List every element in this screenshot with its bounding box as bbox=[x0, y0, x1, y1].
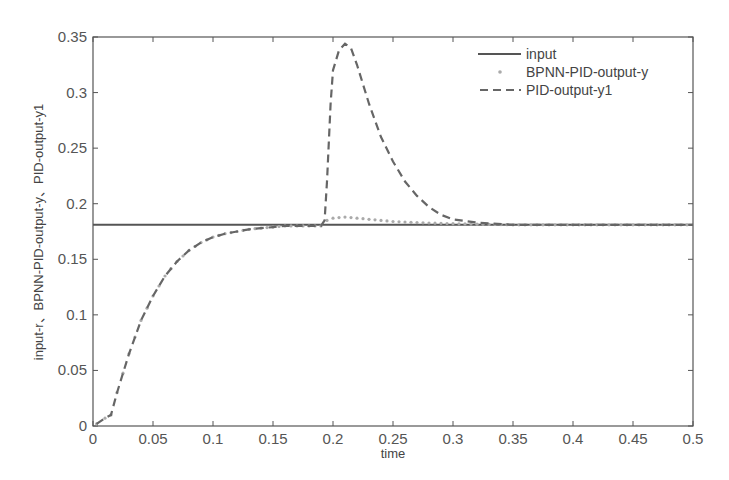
y-tick-label: 0.35 bbox=[58, 28, 87, 45]
x-tick-label: 0.5 bbox=[683, 430, 704, 447]
legend-swatch-bpnn-pid bbox=[498, 70, 502, 74]
legend-label-input: input bbox=[526, 46, 556, 62]
x-tick-label: 0.4 bbox=[563, 430, 584, 447]
x-tick-label: 0.15 bbox=[258, 430, 287, 447]
x-tick-label: 0.05 bbox=[138, 430, 167, 447]
x-tick-label: 0.45 bbox=[618, 430, 647, 447]
x-tick-label: 0.1 bbox=[203, 430, 224, 447]
y-tick-label: 0.05 bbox=[58, 361, 87, 378]
x-tick-label: 0 bbox=[89, 430, 97, 447]
y-tick-label: 0.1 bbox=[66, 306, 87, 323]
x-tick-label: 0.2 bbox=[323, 430, 344, 447]
y-tick-label: 0.15 bbox=[58, 250, 87, 267]
y-tick-label: 0.3 bbox=[66, 84, 87, 101]
x-axis-label: time bbox=[381, 446, 406, 461]
line-chart: 00.050.10.150.20.250.30.350.40.450.5 00.… bbox=[0, 0, 729, 480]
y-tick-label: 0.25 bbox=[58, 139, 87, 156]
x-tick-label: 0.35 bbox=[498, 430, 527, 447]
x-tick-label: 0.25 bbox=[378, 430, 407, 447]
x-tick-label: 0.3 bbox=[443, 430, 464, 447]
legend-label-pid: PID-output-y1 bbox=[526, 82, 613, 98]
legend-label-bpnn-pid: BPNN-PID-output-y bbox=[526, 64, 648, 80]
y-tick-label: 0.2 bbox=[66, 195, 87, 212]
y-tick-label: 0 bbox=[79, 417, 87, 434]
y-axis-label: input-r、BPNN-PID-output-y、PID-output-y1 bbox=[31, 104, 46, 360]
